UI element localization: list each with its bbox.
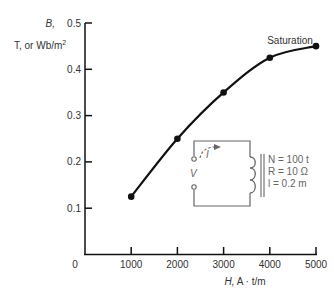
y-tick-label: 0.2 bbox=[67, 156, 81, 167]
param-turns: N = 100 t bbox=[268, 154, 309, 165]
y-tick-label: 0.3 bbox=[67, 110, 81, 121]
param-resistance: R = 10 Ω bbox=[268, 166, 309, 177]
data-point bbox=[267, 54, 274, 61]
y-tick-label: 0.5 bbox=[67, 18, 81, 29]
data-point bbox=[128, 193, 135, 200]
x-axis-label: H, A · t/m bbox=[224, 276, 265, 287]
y-axis-units: T, or Wb/m2 bbox=[14, 39, 66, 51]
data-point bbox=[313, 43, 320, 50]
y-axis-symbol: B, bbox=[46, 18, 55, 29]
current-label: I bbox=[206, 149, 209, 160]
x-tick-label: 3000 bbox=[212, 259, 235, 270]
x-ticks: 10002000300040005000 bbox=[120, 247, 327, 270]
data-point bbox=[174, 135, 181, 142]
x-tick-label: 1000 bbox=[120, 259, 143, 270]
y-ticks: 0.10.20.30.40.5 bbox=[67, 18, 92, 214]
voltage-label: V bbox=[190, 168, 198, 179]
saturation-label: Saturation bbox=[267, 35, 313, 46]
terminal-top bbox=[192, 157, 196, 161]
x-tick-label: 2000 bbox=[166, 259, 189, 270]
y-tick-label: 0.1 bbox=[67, 203, 81, 214]
x-tick-label: 5000 bbox=[305, 259, 328, 270]
coil-icon bbox=[250, 157, 255, 193]
x-tick-label: 4000 bbox=[259, 259, 282, 270]
y-tick-label: 0.4 bbox=[67, 64, 81, 75]
data-point bbox=[220, 89, 227, 96]
bh-curve-diagram: 0.10.20.30.40.5 10002000300040005000 B, … bbox=[0, 0, 334, 290]
terminal-bottom bbox=[192, 185, 196, 189]
arrowhead-icon bbox=[214, 144, 221, 150]
origin-label: 0 bbox=[72, 259, 78, 270]
circuit-inset: I V N = 100 t R = 10 Ω l = 0.2 m bbox=[190, 141, 309, 206]
param-length: l = 0.2 m bbox=[268, 178, 307, 189]
